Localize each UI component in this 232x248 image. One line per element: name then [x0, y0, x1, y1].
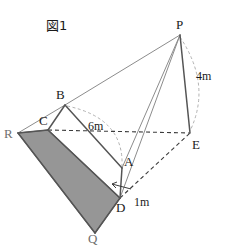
- vertex-label-E: E: [192, 138, 200, 151]
- dimension-label-1m: 1m: [134, 196, 149, 208]
- vertex-label-D: D: [116, 201, 125, 214]
- edge-P-A: [122, 35, 180, 168]
- dimension-label-6m: 6m: [88, 120, 103, 132]
- edge-P-D: [120, 35, 180, 198]
- edge-B-C: [48, 105, 65, 130]
- measure-arcs: [67, 37, 199, 166]
- arc-4m-icon: [180, 37, 199, 131]
- edge-P-E: [180, 35, 190, 133]
- edge-P-B: [65, 35, 180, 105]
- vertex-label-B: B: [56, 88, 65, 101]
- figure-container: 図1: [0, 0, 232, 248]
- vertex-label-R: R: [4, 127, 13, 140]
- edge-C-E: [48, 130, 190, 133]
- vertex-label-A: A: [124, 155, 133, 168]
- vertex-label-C: C: [39, 114, 48, 127]
- vertex-label-Q: Q: [88, 232, 97, 245]
- vertex-label-P: P: [176, 18, 183, 31]
- dimension-label-4m: 4m: [196, 70, 211, 82]
- shaded-face-rcdq: [18, 130, 120, 233]
